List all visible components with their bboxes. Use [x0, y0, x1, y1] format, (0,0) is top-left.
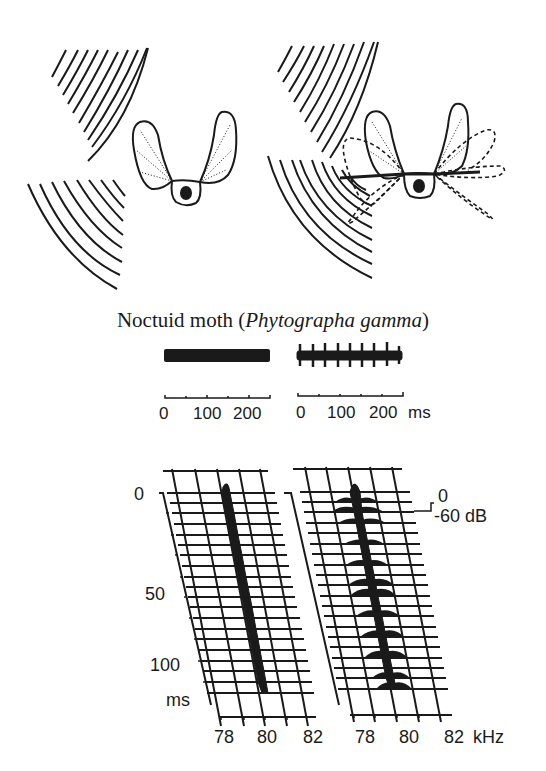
time-tick-left-200: 200: [233, 404, 261, 424]
right-wavefronts-upper: [278, 42, 378, 158]
freq-tick-right-82: 82: [444, 727, 464, 748]
time-tick-right-200: 200: [369, 403, 397, 423]
caption-close: ): [422, 308, 429, 332]
time-tick-left-100: 100: [193, 404, 221, 424]
caption-common-name: Noctuid moth (: [117, 308, 245, 332]
freq-unit-khz: kHz: [473, 727, 504, 748]
time-axis-left: [165, 395, 270, 398]
right-wavefronts-lower: [268, 156, 372, 278]
echo-waveform-modulated: [297, 342, 402, 367]
time-axis-right: [298, 392, 403, 396]
waterfall-time-tick-100: 100: [150, 655, 180, 676]
figure-canvas: [0, 0, 546, 771]
time-tick-right-0: 0: [296, 403, 305, 423]
right-moth: [340, 104, 505, 224]
freq-tick-left-78: 78: [214, 727, 234, 748]
waterfall-time-tick-0: 0: [134, 484, 144, 505]
time-tick-right-100: 100: [327, 403, 355, 423]
waterfall-right: [293, 467, 452, 722]
left-wavefronts-lower: [28, 180, 125, 289]
time-unit-ms: ms: [408, 403, 431, 423]
freq-tick-right-78: 78: [355, 727, 375, 748]
db-label-bottom: -60 dB: [434, 506, 487, 527]
freq-tick-right-80: 80: [399, 727, 419, 748]
time-tick-left-0: 0: [159, 404, 168, 424]
waterfall-time-unit: ms: [166, 690, 190, 711]
waterfall-time-tick-50: 50: [145, 584, 165, 605]
db-scale-marker: [414, 503, 434, 511]
freq-tick-left-80: 80: [257, 727, 277, 748]
figure-caption: Noctuid moth (Phytographa gamma): [0, 308, 546, 333]
left-moth: [133, 112, 236, 205]
caption-species-name: Phytographa gamma: [245, 308, 422, 332]
freq-tick-left-82: 82: [303, 727, 323, 748]
echo-waveform-steady: [164, 349, 270, 362]
db-label-top: 0: [438, 486, 448, 507]
